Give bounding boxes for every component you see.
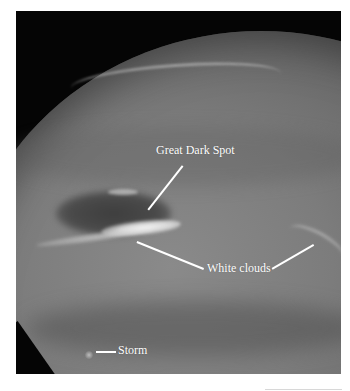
storm-feature: [85, 351, 93, 359]
storm-label: Storm: [118, 343, 147, 358]
white-cloud-small: [108, 189, 138, 195]
great-dark-spot-label: Great Dark Spot: [156, 143, 235, 158]
storm-leader-line: [96, 351, 116, 353]
divider: [265, 389, 342, 390]
white-clouds-label: White clouds: [207, 261, 271, 276]
neptune-photo: [16, 11, 341, 374]
